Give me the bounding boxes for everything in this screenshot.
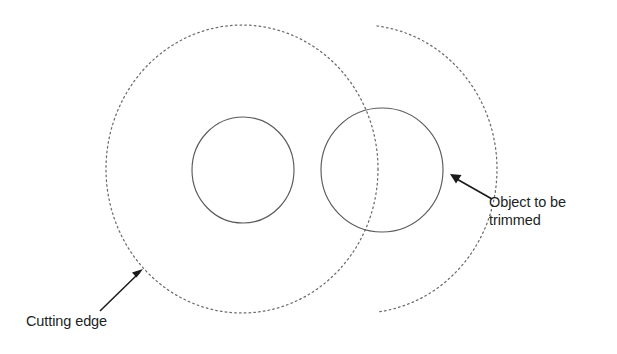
cutting-edge-leader-line [100,272,140,311]
object-trimmed-label-line2: trimmed [489,212,541,228]
object-trimmed-leader [450,174,492,199]
cutting-edge-overlap-arc [377,26,497,312]
diagram-canvas: Cutting edge Object to betrimmed [0,0,617,354]
trim-diagram [0,0,617,354]
cutting-edge-label: Cutting edge [26,313,107,331]
object-circle [321,108,443,232]
cutting-edge-leader [100,269,143,311]
object-trimmed-label: Object to betrimmed [489,194,566,229]
object-trimmed-arrowhead [450,174,462,184]
inner-circle [192,117,294,223]
cutting-edge-arrowhead [132,269,143,278]
object-trimmed-leader-line [455,178,492,199]
cutting-edge-circle [106,25,378,313]
object-trimmed-label-line1: Object to be [489,194,566,210]
